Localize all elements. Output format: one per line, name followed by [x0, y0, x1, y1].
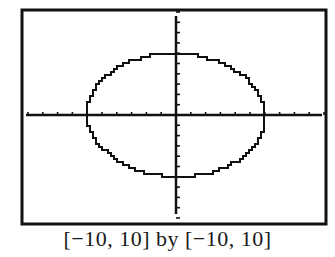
graph-frame: [22, 10, 326, 224]
window-caption: [−10, 10] by [−10, 10]: [0, 226, 335, 252]
calculator-graph-window: [0, 0, 335, 226]
